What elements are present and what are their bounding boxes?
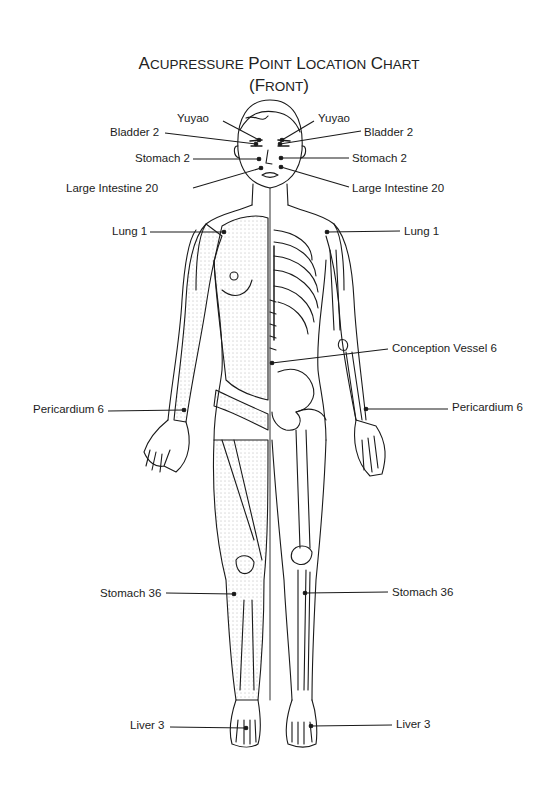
acupoint-marker-bladder2-right (278, 142, 282, 146)
point-label-st36-right: Stomach 36 (392, 586, 453, 599)
point-label-yuyao-left: Yuyao (177, 112, 209, 125)
point-label-liver3-right: Liver 3 (396, 718, 431, 731)
leader-line-liver3-left (170, 727, 246, 728)
leader-line-yuyao-right (282, 121, 314, 140)
point-label-li20-left: Large Intestine 20 (66, 182, 158, 195)
right-hand (355, 420, 386, 476)
acupoint-marker-yuyao-right (280, 138, 284, 142)
point-label-yuyao-right: Yuyao (318, 112, 350, 125)
left-arm (174, 224, 222, 422)
point-label-lung1-left: Lung 1 (112, 225, 147, 238)
leader-line-bladder2-left (165, 133, 256, 144)
point-label-stomach2-right: Stomach 2 (352, 152, 407, 165)
acupoint-marker-liver3-right (309, 724, 313, 728)
point-label-stomach2-left: Stomach 2 (135, 152, 190, 165)
acupoint-marker-stomach2-right (279, 156, 283, 160)
point-label-cv6: Conception Vessel 6 (392, 342, 497, 355)
acupoint-marker-pc6-left (182, 408, 186, 412)
body-figure-front (0, 0, 558, 791)
acupoint-marker-li20-right (279, 165, 283, 169)
ribcage (274, 230, 318, 340)
leader-line-bladder2-right (280, 131, 361, 144)
pelvis (272, 369, 314, 430)
leader-line-liver3-right (311, 725, 392, 726)
acupoint-marker-lung1-left (222, 230, 226, 234)
point-label-bladder2-left: Bladder 2 (110, 126, 159, 139)
point-label-bladder2-right: Bladder 2 (364, 126, 413, 139)
acupoint-marker-liver3-left (244, 726, 248, 730)
point-label-pc6-left: Pericardium 6 (33, 403, 104, 416)
leader-line-st36-left (166, 593, 234, 594)
point-label-liver3-left: Liver 3 (130, 719, 165, 732)
leader-line-yuyao-left (223, 121, 259, 140)
acupoint-marker-bladder2-left (254, 142, 258, 146)
head (234, 100, 305, 188)
acupoint-marker-lung1-right (325, 230, 329, 234)
acupoint-marker-st36-right (303, 591, 307, 595)
acupoint-marker-st36-left (232, 592, 236, 596)
right-leg (272, 440, 326, 700)
acupoint-marker-cv6 (270, 361, 274, 365)
point-label-lung1-right: Lung 1 (404, 225, 439, 238)
point-label-st36-left: Stomach 36 (100, 587, 161, 600)
acupoint-marker-yuyao-left (257, 138, 261, 142)
point-label-pc6-right: Pericardium 6 (452, 401, 523, 414)
leader-line-st36-right (305, 592, 388, 593)
left-hand (144, 420, 189, 472)
right-arm (326, 224, 366, 420)
acupoint-marker-stomach2-left (257, 157, 261, 161)
acupoint-marker-li20-left (259, 166, 263, 170)
point-label-li20-right: Large Intestine 20 (352, 182, 444, 195)
leader-line-pc6-left (108, 410, 184, 411)
leader-line-cv6 (272, 349, 388, 363)
leader-line-li20-left (193, 168, 261, 188)
acupoint-marker-pc6-right (364, 407, 368, 411)
